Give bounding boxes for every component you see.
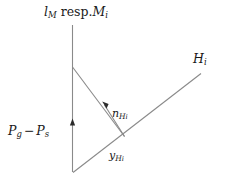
label-resp-word: resp. [61,4,93,19]
label-ps-subscript: s [45,129,49,139]
label-lm-resp-mi: lMresp.Mi [44,6,108,20]
label-n-hi: nHi [112,108,128,121]
label-ps-base: P [36,123,44,138]
label-y-hi-subsubscript: i [122,155,124,163]
vertical-line-arrowhead [70,119,75,126]
label-hi: Hi [193,53,207,67]
label-hi-base: H [193,51,204,66]
label-pg-minus-ps: Pg−Ps [8,125,49,139]
branch-line [73,67,125,137]
label-n-hi-subsubscript: i [126,113,128,121]
label-minus-operator: − [22,123,36,138]
geometry-diagram: lMresp.Mi Hi nHi yHi Pg−Ps [0,0,233,176]
label-mi-base: M [92,4,105,19]
label-mi-subscript: i [105,10,108,20]
label-lm-subscript: M [48,10,57,20]
label-y-hi: yHi [109,150,124,163]
diagonal-line [73,74,201,173]
label-hi-subscript: i [204,57,207,67]
